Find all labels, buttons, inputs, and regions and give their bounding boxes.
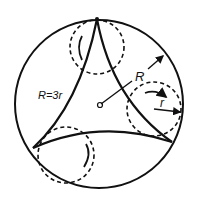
hypocycloid-diagram: R=3r R r bbox=[0, 0, 197, 204]
radius-R-line-inner bbox=[101, 81, 132, 104]
label-inner-radius: r bbox=[160, 97, 164, 109]
radius-r-arrow bbox=[154, 109, 180, 112]
label-outer-radius: R bbox=[135, 70, 144, 83]
radius-R-arrow bbox=[148, 56, 163, 69]
rotation-arrow-top bbox=[79, 36, 82, 60]
diagram-canvas bbox=[0, 0, 197, 204]
label-ratio: R=3r bbox=[38, 90, 62, 101]
rotation-arrow-bottom-left bbox=[84, 144, 89, 167]
